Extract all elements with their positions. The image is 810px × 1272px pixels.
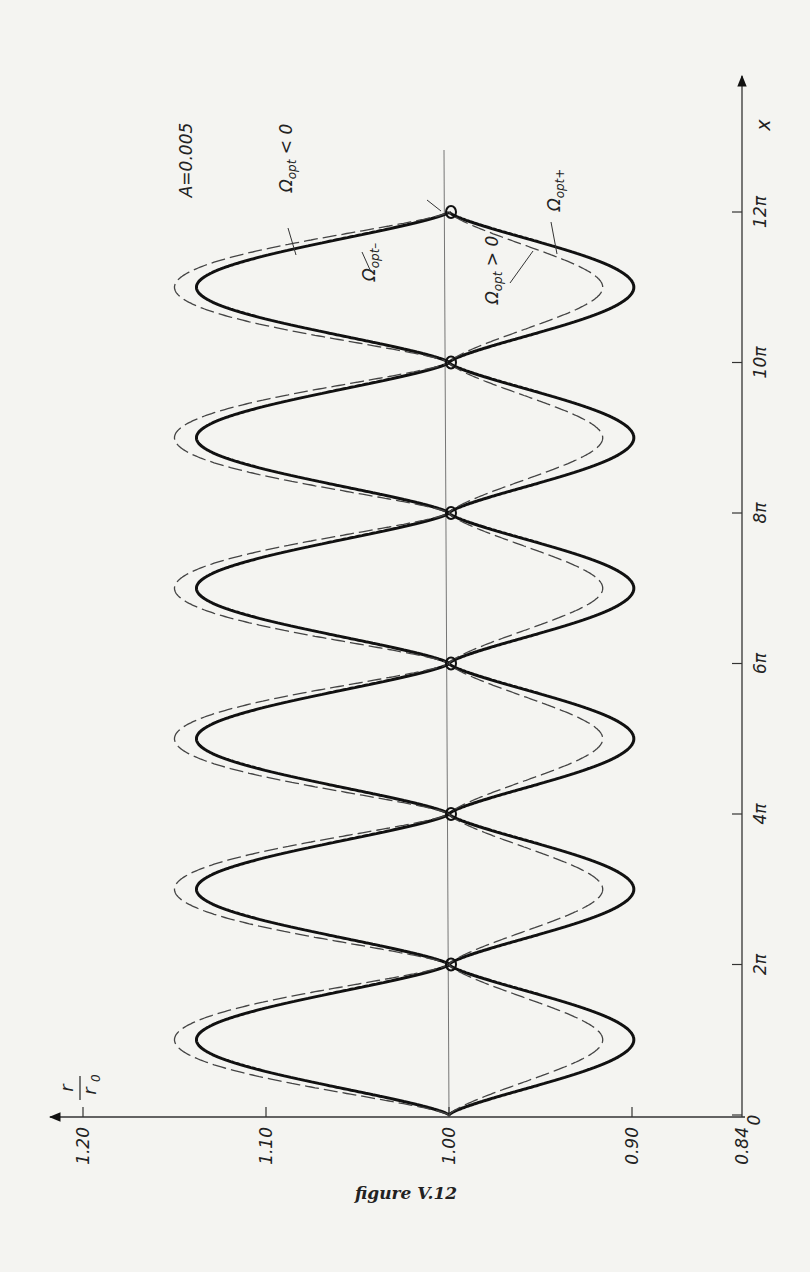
- svg-text:Ωopt > 0: Ωopt > 0: [482, 236, 505, 306]
- svg-text:0: 0: [89, 1074, 103, 1082]
- leader-omega-opt-positive: [510, 251, 533, 283]
- svg-text:Ωopt+: Ωopt+: [544, 169, 567, 213]
- leader-omega-opt-plus: [551, 222, 557, 254]
- dashed-curve-lower: [449, 212, 603, 1115]
- x-tick-label: 4π: [750, 803, 770, 825]
- x-tick-label: 2π: [750, 953, 770, 975]
- label-omega-opt-plus: Ωopt+: [544, 169, 567, 213]
- label-omega-opt-positive: Ωopt > 0: [482, 236, 505, 306]
- parameter-label: A=0.005: [176, 123, 196, 199]
- solid-curve-upper: [197, 212, 450, 1115]
- x-axis-label: x: [752, 119, 774, 132]
- x-axis-ticks: 2π4π6π8π10π12π0: [732, 195, 770, 1125]
- r-axis-label: r r 0: [56, 1074, 103, 1100]
- svg-text:Ωopt–: Ωopt–: [359, 243, 382, 283]
- label-omega-opt-negative: Ωopt < 0: [276, 124, 299, 194]
- r-tick-label: 1.20: [73, 1127, 93, 1165]
- label-omega-opt-minus: Ωopt–: [359, 243, 382, 283]
- x-tick-label-zero: 0: [744, 1115, 764, 1126]
- reference-line-r1: [444, 150, 449, 1117]
- svg-text:Ωopt < 0: Ωopt < 0: [276, 124, 299, 194]
- figure-caption: figure V.12: [355, 1183, 457, 1203]
- r-tick-label: 0.84: [732, 1127, 752, 1165]
- r-axis-ticks: 1.201.101.000.900.84: [73, 1107, 752, 1165]
- r-tick-label: 1.00: [439, 1127, 459, 1165]
- svg-text:r: r: [79, 1086, 100, 1095]
- leader-loop-12pi: [427, 200, 441, 211]
- dashed-curve-upper: [175, 212, 450, 1115]
- x-tick-label: 8π: [750, 502, 770, 524]
- x-tick-label: 10π: [750, 346, 770, 379]
- svg-text:r: r: [56, 1083, 77, 1092]
- r-tick-label: 0.90: [622, 1127, 642, 1165]
- chart-figure: 2π4π6π8π10π12π0 1.201.101.000.900.84 x r…: [0, 0, 810, 1272]
- plot-curves: [175, 206, 634, 1115]
- r-tick-label: 1.10: [256, 1127, 276, 1165]
- x-tick-label: 6π: [750, 652, 770, 674]
- x-tick-label: 12π: [750, 195, 770, 228]
